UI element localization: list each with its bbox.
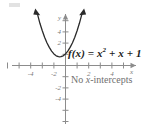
function-equation-label: f(x) = x2 + x + 1 bbox=[68, 47, 142, 59]
quadratic-graph-figure: -4 -2 2 4 4 2 -2 -4 x y f(x) = x2 + x + … bbox=[0, 0, 147, 132]
x-tick-label--4: -4 bbox=[28, 70, 34, 78]
no-x-intercepts-note: No x-intercepts bbox=[71, 74, 132, 85]
y-tick-label--2: -2 bbox=[55, 84, 61, 92]
y-tick-label-2: 2 bbox=[58, 39, 62, 47]
y-axis-label: y bbox=[57, 14, 62, 22]
y-tick-label-4: 4 bbox=[58, 28, 62, 36]
note-prefix: No bbox=[71, 74, 86, 85]
note-suffix: -intercepts bbox=[90, 74, 132, 85]
y-axis bbox=[63, 14, 68, 124]
y-tick-label--4: -4 bbox=[55, 95, 61, 103]
equation-tail: + x + 1 bbox=[106, 47, 141, 59]
x-tick-label--2: -2 bbox=[51, 70, 57, 78]
coordinate-plane: -4 -2 2 4 4 2 -2 -4 x y bbox=[0, 0, 147, 132]
parabola-right-arrowhead bbox=[79, 9, 86, 16]
equation-base: f(x) = x bbox=[68, 47, 103, 59]
parabola-left-arrowhead bbox=[33, 9, 40, 16]
